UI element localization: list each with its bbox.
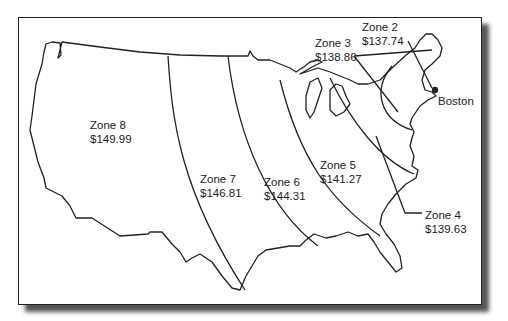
zone-6-price: $144.31: [264, 189, 306, 203]
zone-3-label: Zone 3 $138.86: [315, 36, 357, 64]
zone-4-price: $139.63: [425, 222, 467, 236]
boston-label: Boston: [438, 94, 474, 108]
zone-2-name: Zone 2: [362, 20, 404, 34]
zone-8-price: $149.99: [90, 132, 132, 146]
zone-2-price: $137.74: [362, 34, 404, 48]
zone-5-price: $141.27: [320, 172, 362, 186]
zone-6-name: Zone 6: [264, 175, 306, 189]
zone-5-label: Zone 5 $141.27: [320, 158, 362, 186]
zone-3-name: Zone 3: [315, 36, 357, 50]
zone-7-name: Zone 7: [200, 172, 242, 186]
zone-3-price: $138.86: [315, 50, 357, 64]
zone-5-name: Zone 5: [320, 158, 362, 172]
zone-7-price: $146.81: [200, 186, 242, 200]
zone-4-name: Zone 4: [425, 208, 467, 222]
leader-zone-4: [376, 136, 422, 213]
zone-boundary-3-4: [381, 66, 412, 130]
zone-7-label: Zone 7 $146.81: [200, 172, 242, 200]
us-map: [0, 0, 508, 321]
leader-zone-3-a: [354, 50, 432, 56]
zone-8-label: Zone 8 $149.99: [90, 118, 132, 146]
us-outline: [30, 34, 442, 290]
zone-4-label: Zone 4 $139.63: [425, 208, 467, 236]
zone-boundary-6-7: [228, 56, 318, 246]
zone-2-label: Zone 2 $137.74: [362, 20, 404, 48]
boston-marker: [433, 88, 438, 93]
zone-6-label: Zone 6 $144.31: [264, 175, 306, 203]
zone-8-name: Zone 8: [90, 118, 132, 132]
leader-zone-2: [408, 41, 432, 88]
